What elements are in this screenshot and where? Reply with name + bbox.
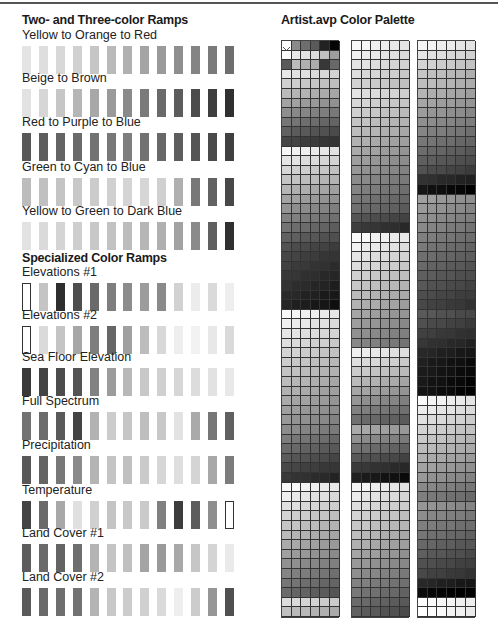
palette-cell[interactable] <box>418 204 428 214</box>
palette-cell[interactable] <box>390 41 400 51</box>
palette-cell[interactable] <box>437 118 447 128</box>
palette-cell[interactable] <box>381 550 391 560</box>
palette-cell[interactable] <box>381 300 391 310</box>
color-swatch[interactable] <box>39 544 48 572</box>
palette-cell[interactable] <box>292 89 302 99</box>
palette-cell[interactable] <box>352 348 362 358</box>
palette-cell[interactable] <box>301 60 311 70</box>
palette-cell[interactable] <box>330 252 340 262</box>
palette-cell[interactable] <box>447 70 457 80</box>
palette-cell[interactable] <box>362 329 372 339</box>
palette-cell[interactable] <box>301 550 311 560</box>
palette-cell[interactable] <box>320 243 330 253</box>
palette-cell[interactable] <box>418 108 428 118</box>
palette-cell[interactable] <box>466 559 476 569</box>
palette-cell[interactable] <box>381 243 391 253</box>
palette-cell[interactable] <box>400 531 410 541</box>
palette-cell[interactable] <box>362 291 372 301</box>
palette-cell[interactable] <box>311 473 321 483</box>
palette-cell[interactable] <box>301 598 311 608</box>
palette-cell[interactable] <box>428 473 438 483</box>
palette-cell[interactable] <box>447 387 457 397</box>
palette-cell[interactable] <box>352 166 362 176</box>
palette-cell[interactable] <box>371 406 381 416</box>
palette-cell[interactable] <box>362 348 372 358</box>
palette-cell[interactable] <box>428 607 438 617</box>
palette-cell[interactable] <box>447 262 457 272</box>
palette-cell[interactable] <box>418 195 428 205</box>
color-ramp[interactable] <box>22 133 237 161</box>
palette-cell[interactable] <box>400 300 410 310</box>
palette-cell[interactable] <box>330 588 340 598</box>
color-swatch[interactable] <box>56 501 65 529</box>
palette-cell[interactable] <box>362 243 372 253</box>
palette-cell[interactable] <box>418 339 428 349</box>
color-swatch[interactable] <box>22 133 31 161</box>
palette-cell[interactable] <box>456 127 466 137</box>
palette-cell[interactable] <box>418 79 428 89</box>
palette-cell[interactable] <box>400 502 410 512</box>
palette-cell[interactable] <box>371 492 381 502</box>
color-swatch[interactable] <box>56 412 65 440</box>
palette-cell[interactable] <box>362 127 372 137</box>
palette-cell[interactable] <box>400 99 410 109</box>
palette-cell[interactable] <box>292 118 302 128</box>
palette-cell[interactable] <box>381 60 391 70</box>
palette-cell[interactable] <box>447 588 457 598</box>
palette-cell[interactable] <box>301 271 311 281</box>
palette-cell[interactable] <box>371 598 381 608</box>
palette-cell[interactable] <box>371 262 381 272</box>
palette-cell[interactable] <box>466 521 476 531</box>
color-swatch[interactable] <box>107 368 116 396</box>
palette-cell[interactable] <box>282 607 292 617</box>
palette-cell[interactable] <box>371 89 381 99</box>
palette-cell[interactable] <box>311 300 321 310</box>
palette-cell[interactable] <box>362 195 372 205</box>
palette-cell[interactable] <box>466 204 476 214</box>
palette-cell[interactable] <box>418 291 428 301</box>
palette-cell[interactable] <box>381 559 391 569</box>
palette-cell[interactable] <box>381 511 391 521</box>
palette-cell[interactable] <box>418 175 428 185</box>
palette-cell[interactable] <box>352 147 362 157</box>
palette-cell[interactable] <box>311 348 321 358</box>
palette-cell[interactable] <box>301 310 311 320</box>
palette-cell[interactable] <box>371 319 381 329</box>
color-swatch[interactable] <box>107 456 116 484</box>
palette-cell[interactable] <box>466 579 476 589</box>
palette-cell[interactable] <box>292 60 302 70</box>
palette-cell[interactable] <box>456 118 466 128</box>
palette-cell[interactable] <box>428 454 438 464</box>
palette-cell[interactable] <box>381 358 391 368</box>
palette-cell[interactable] <box>330 147 340 157</box>
palette-cell[interactable] <box>311 559 321 569</box>
palette-cell[interactable] <box>447 502 457 512</box>
palette-cell[interactable] <box>282 329 292 339</box>
palette-cell[interactable] <box>466 185 476 195</box>
palette-cell[interactable] <box>437 41 447 51</box>
palette-cell[interactable] <box>371 281 381 291</box>
palette-cell[interactable] <box>381 483 391 493</box>
color-swatch[interactable] <box>73 501 82 529</box>
palette-cell[interactable] <box>447 127 457 137</box>
palette-cell[interactable] <box>456 147 466 157</box>
palette-cell[interactable] <box>400 425 410 435</box>
palette-cell[interactable] <box>428 598 438 608</box>
color-swatch[interactable] <box>39 501 48 529</box>
palette-cell[interactable] <box>447 137 457 147</box>
palette-cell[interactable] <box>352 367 362 377</box>
palette-cell[interactable] <box>381 262 391 272</box>
palette-cell[interactable] <box>418 319 428 329</box>
palette-cell[interactable] <box>362 483 372 493</box>
color-swatch[interactable] <box>73 412 82 440</box>
palette-cell[interactable] <box>400 166 410 176</box>
palette-cell[interactable] <box>447 550 457 560</box>
palette-cell[interactable] <box>330 329 340 339</box>
palette-cell[interactable] <box>466 195 476 205</box>
palette-cell[interactable] <box>311 233 321 243</box>
palette-cell[interactable] <box>330 291 340 301</box>
palette-cell[interactable] <box>447 435 457 445</box>
palette-cell[interactable] <box>320 118 330 128</box>
palette-cell[interactable] <box>466 175 476 185</box>
palette-cell[interactable] <box>320 588 330 598</box>
